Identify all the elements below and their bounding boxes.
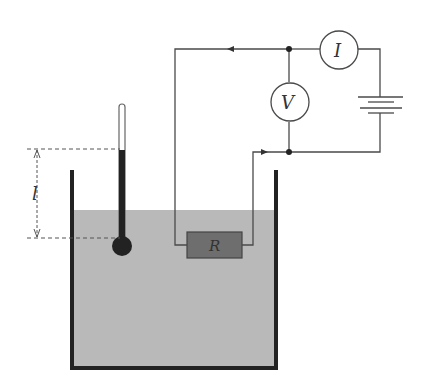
ammeter: I bbox=[320, 31, 358, 69]
current-arrow-icon bbox=[227, 46, 234, 52]
ammeter-label: I bbox=[333, 40, 342, 61]
junction-bottom bbox=[286, 149, 292, 155]
resistor-label: R bbox=[208, 237, 220, 255]
liquid bbox=[72, 210, 276, 368]
wire-battery-return bbox=[289, 113, 380, 152]
thermometer-bulb bbox=[112, 236, 132, 256]
thermometer-mercury-column bbox=[119, 150, 125, 242]
current-arrow-icon bbox=[261, 149, 268, 155]
wire-ammeter-to-battery bbox=[358, 49, 380, 97]
length-label: l bbox=[32, 183, 38, 204]
battery-icon bbox=[358, 97, 403, 113]
diagram-canvas: l R V I bbox=[0, 0, 431, 389]
junction-top bbox=[286, 46, 292, 52]
voltmeter-label: V bbox=[281, 92, 296, 113]
resistor: R bbox=[187, 232, 242, 258]
voltmeter: V bbox=[271, 83, 309, 121]
